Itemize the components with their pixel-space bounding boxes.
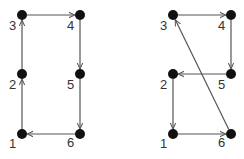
diagram-canvas — [0, 0, 244, 159]
node-label-left-cycle-6: 6 — [67, 136, 74, 149]
node-label-right-cycle-6: 6 — [218, 136, 225, 149]
edges-layer — [22, 15, 231, 134]
node-right-cycle-6 — [226, 129, 236, 139]
node-right-cycle-3 — [168, 10, 178, 20]
node-left-cycle-5 — [75, 69, 85, 79]
node-left-cycle-2 — [17, 69, 27, 79]
node-label-right-cycle-5: 5 — [218, 78, 225, 91]
node-right-cycle-1 — [168, 129, 178, 139]
node-left-cycle-1 — [17, 129, 27, 139]
node-label-right-cycle-4: 4 — [218, 19, 225, 32]
node-label-left-cycle-4: 4 — [67, 19, 74, 32]
node-label-right-cycle-1: 1 — [160, 137, 167, 150]
node-label-right-cycle-2: 2 — [160, 78, 167, 91]
node-label-left-cycle-5: 5 — [67, 78, 74, 91]
node-label-left-cycle-1: 1 — [9, 137, 16, 150]
node-label-left-cycle-3: 3 — [9, 19, 16, 32]
node-label-right-cycle-3: 3 — [160, 19, 167, 32]
node-right-cycle-2 — [168, 69, 178, 79]
node-label-left-cycle-2: 2 — [9, 78, 16, 91]
node-left-cycle-3 — [17, 10, 27, 20]
node-right-cycle-5 — [226, 69, 236, 79]
node-left-cycle-6 — [75, 129, 85, 139]
node-right-cycle-4 — [226, 10, 236, 20]
node-left-cycle-4 — [75, 10, 85, 20]
